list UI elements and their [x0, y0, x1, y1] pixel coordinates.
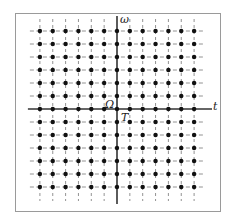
lattice-point — [153, 68, 157, 72]
lattice-point — [179, 94, 183, 98]
lattice-point — [89, 185, 93, 189]
lattice-point — [166, 146, 170, 150]
lattice-point — [89, 146, 93, 150]
lattice-point — [89, 55, 93, 59]
lattice-point — [115, 42, 119, 46]
lattice-point — [192, 94, 196, 98]
lattice-point — [192, 29, 196, 33]
lattice-point — [179, 133, 183, 137]
lattice-point — [192, 120, 196, 124]
lattice-point — [179, 68, 183, 72]
lattice-point — [102, 159, 106, 163]
lattice-point — [38, 185, 42, 189]
lattice-point — [115, 107, 119, 111]
lattice-point — [63, 42, 67, 46]
lattice-point — [102, 172, 106, 176]
lattice-point — [38, 120, 42, 124]
lattice-point — [51, 172, 55, 176]
lattice-point — [166, 120, 170, 124]
lattice-point — [63, 107, 67, 111]
lattice-point — [89, 94, 93, 98]
lattice-point — [166, 68, 170, 72]
lattice-point — [76, 94, 80, 98]
lattice-point — [51, 42, 55, 46]
lattice-point — [51, 94, 55, 98]
lattice-point — [179, 146, 183, 150]
lattice-point — [141, 146, 145, 150]
lattice-point — [38, 81, 42, 85]
lattice-point — [51, 120, 55, 124]
lattice-point — [153, 81, 157, 85]
lattice-point — [76, 42, 80, 46]
lattice-point — [76, 185, 80, 189]
lattice-point — [115, 146, 119, 150]
lattice-point — [51, 159, 55, 163]
lattice-point — [166, 42, 170, 46]
lattice-point — [153, 107, 157, 111]
lattice-point — [102, 81, 106, 85]
lattice-point — [141, 55, 145, 59]
lattice-point — [51, 133, 55, 137]
lattice-point — [51, 185, 55, 189]
omega-spacing-label: Ω — [105, 99, 114, 110]
lattice-point — [63, 146, 67, 150]
lattice-point — [115, 133, 119, 137]
lattice-plot — [0, 0, 231, 224]
lattice-point — [153, 159, 157, 163]
lattice-point — [128, 94, 132, 98]
lattice-point — [76, 55, 80, 59]
lattice-point — [76, 120, 80, 124]
lattice-point — [115, 120, 119, 124]
lattice-point — [128, 42, 132, 46]
lattice-point — [76, 29, 80, 33]
lattice-point — [153, 185, 157, 189]
lattice-point — [115, 55, 119, 59]
lattice-point — [166, 107, 170, 111]
lattice-point — [128, 68, 132, 72]
lattice-point — [51, 81, 55, 85]
lattice-point — [63, 55, 67, 59]
t-axis-label: t — [213, 101, 217, 112]
lattice-point — [166, 172, 170, 176]
lattice-point — [192, 172, 196, 176]
lattice-point — [179, 81, 183, 85]
lattice-point — [63, 172, 67, 176]
lattice-point — [128, 146, 132, 150]
lattice-point — [166, 94, 170, 98]
lattice-point — [192, 68, 196, 72]
lattice-point — [192, 55, 196, 59]
lattice-point — [76, 133, 80, 137]
lattice-point — [153, 29, 157, 33]
lattice-point — [153, 120, 157, 124]
lattice-point — [63, 120, 67, 124]
lattice-point — [179, 29, 183, 33]
lattice-point — [166, 185, 170, 189]
lattice-point — [51, 55, 55, 59]
lattice-point — [38, 133, 42, 137]
lattice-point — [192, 107, 196, 111]
lattice-point — [153, 94, 157, 98]
lattice-point — [115, 68, 119, 72]
lattice-point — [102, 146, 106, 150]
lattice-point — [51, 107, 55, 111]
lattice-point — [128, 133, 132, 137]
lattice-point — [192, 146, 196, 150]
lattice-point — [76, 68, 80, 72]
lattice-point — [166, 159, 170, 163]
lattice-point — [141, 42, 145, 46]
lattice-point — [141, 172, 145, 176]
lattice-point — [128, 81, 132, 85]
lattice-point — [63, 159, 67, 163]
lattice-point — [89, 81, 93, 85]
lattice-point — [102, 185, 106, 189]
lattice-point — [89, 120, 93, 124]
lattice-point — [141, 107, 145, 111]
lattice-point — [89, 133, 93, 137]
lattice-point — [179, 185, 183, 189]
lattice-point — [192, 159, 196, 163]
lattice-point — [128, 55, 132, 59]
lattice-point — [102, 133, 106, 137]
lattice-point — [89, 29, 93, 33]
lattice-point — [141, 81, 145, 85]
lattice-point — [179, 107, 183, 111]
